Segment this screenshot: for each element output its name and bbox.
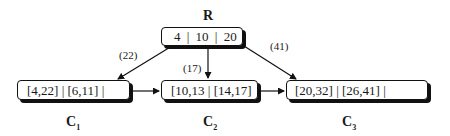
root-title: R bbox=[203, 8, 213, 24]
child-title-c2: C2 bbox=[203, 114, 217, 132]
child-node-c1-content: [4,22] | [6,11] | bbox=[27, 82, 104, 100]
root-node-content: 4 | 10 | 20 bbox=[174, 28, 237, 46]
child-node-c1: [4,22] | [6,11] | bbox=[17, 80, 130, 100]
edge-label-c1: (22) bbox=[119, 49, 137, 61]
child-node-c3-content: [20,32] | [26,41] | bbox=[295, 82, 386, 100]
child-title-c3: C3 bbox=[342, 114, 356, 132]
child-node-c2: [10,13 | [14,17] bbox=[161, 80, 258, 100]
child-node-c2-content: [10,13 | [14,17] bbox=[171, 82, 252, 100]
edge-label-c2: (17) bbox=[183, 62, 201, 74]
edge-label-c3: (41) bbox=[270, 40, 288, 52]
root-node: 4 | 10 | 20 bbox=[161, 27, 243, 46]
child-title-c1: C1 bbox=[66, 114, 80, 132]
child-node-c3: [20,32] | [26,41] | bbox=[286, 80, 428, 100]
